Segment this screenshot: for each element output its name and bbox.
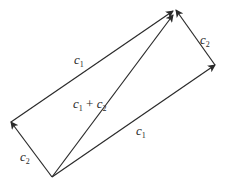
vector-c2-left [11, 122, 52, 177]
label-c1-bottom: c1 [136, 124, 146, 140]
vector-c1-bottom [52, 65, 215, 177]
label-c1-top: c1 [74, 53, 84, 69]
label-c2-right: c2 [200, 33, 210, 49]
label-sum: c1 + c2 [73, 97, 106, 113]
vector-sum [52, 15, 173, 177]
vector-diagram [0, 0, 225, 182]
label-c2-left: c2 [20, 150, 30, 166]
